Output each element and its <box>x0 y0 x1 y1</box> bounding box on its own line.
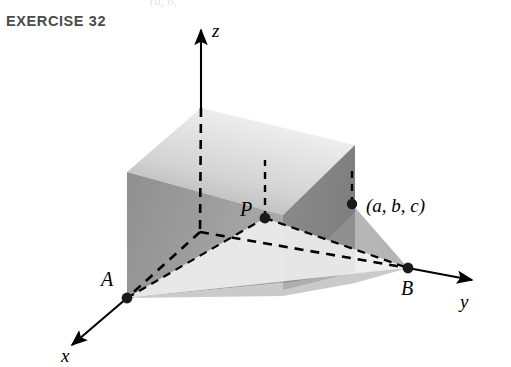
x-axis <box>72 298 127 345</box>
point-abc-label: (a, b, c) <box>366 195 425 217</box>
z-axis-label: z <box>211 20 220 41</box>
point-p-label: P <box>239 198 252 220</box>
x-axis-label: x <box>60 345 70 366</box>
dot-a <box>122 293 133 304</box>
point-b-label: B <box>401 277 413 299</box>
exercise-figure: z x y A B P (a, b, c) <box>0 0 511 367</box>
dot-p <box>260 213 271 224</box>
dot-b <box>403 263 414 274</box>
point-a-label: A <box>99 268 114 290</box>
dot-abc <box>347 199 357 209</box>
y-axis <box>408 268 472 280</box>
y-axis-label: y <box>458 291 469 312</box>
figure-page: (a, b, EXERCISE 32 <box>0 0 511 367</box>
